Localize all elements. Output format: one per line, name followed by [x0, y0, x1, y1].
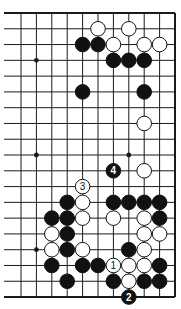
white-stone — [75, 211, 90, 226]
white-stone — [137, 164, 152, 179]
black-stone — [122, 195, 137, 210]
black-stone: 2 — [122, 290, 137, 305]
black-stone — [106, 195, 121, 210]
black-stone — [75, 258, 90, 273]
white-stone — [122, 274, 137, 289]
white-stone: 1 — [106, 258, 121, 273]
white-stone — [137, 258, 152, 273]
black-stone — [91, 258, 106, 273]
black-stone — [75, 85, 90, 100]
black-stone — [152, 274, 167, 289]
black-stone — [45, 211, 60, 226]
white-stone — [137, 37, 152, 52]
black-stone — [60, 211, 75, 226]
white-stone — [137, 227, 152, 242]
white-stone — [75, 195, 90, 210]
white-stone — [106, 211, 121, 226]
black-stone — [152, 195, 167, 210]
black-stone — [106, 274, 121, 289]
black-stone — [137, 85, 152, 100]
white-stone — [137, 116, 152, 131]
white-stone — [152, 227, 167, 242]
stones-layer: 4312 — [45, 21, 167, 304]
black-stone — [60, 195, 75, 210]
white-stone — [137, 242, 152, 257]
move-number-label: 2 — [126, 292, 132, 303]
white-stone — [45, 242, 60, 257]
black-stone — [137, 195, 152, 210]
white-stone — [122, 21, 137, 36]
move-number-label: 1 — [111, 260, 117, 271]
white-stone — [137, 211, 152, 226]
black-stone — [137, 53, 152, 68]
black-stone — [75, 37, 90, 52]
black-stone: 4 — [106, 164, 121, 179]
black-stone — [152, 258, 167, 273]
black-stone — [106, 53, 121, 68]
star-point-icon — [34, 58, 39, 63]
black-stone — [122, 242, 137, 257]
black-stone — [137, 274, 152, 289]
white-stone — [152, 37, 167, 52]
white-stone — [45, 227, 60, 242]
move-number-label: 3 — [80, 181, 86, 192]
black-stone — [152, 211, 167, 226]
star-point-icon — [34, 247, 39, 252]
black-stone — [91, 37, 106, 52]
white-stone: 3 — [75, 179, 90, 194]
black-stone — [122, 53, 137, 68]
black-stone — [60, 274, 75, 289]
black-stone — [45, 258, 60, 273]
black-stone — [60, 242, 75, 257]
star-point-icon — [34, 153, 39, 158]
star-point-icon — [126, 153, 131, 158]
go-board: 4312 — [0, 0, 181, 309]
white-stone — [122, 258, 137, 273]
white-stone — [75, 242, 90, 257]
move-number-label: 4 — [111, 165, 117, 176]
white-stone — [91, 21, 106, 36]
white-stone — [106, 37, 121, 52]
black-stone — [60, 227, 75, 242]
